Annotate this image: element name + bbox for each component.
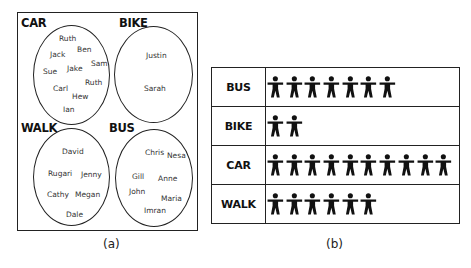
person-icon <box>285 76 304 98</box>
bus-member: Maria <box>161 194 182 203</box>
car-member: Hew <box>72 92 88 101</box>
walk-member: Rugari <box>48 169 72 178</box>
car-member: Ruth <box>59 34 76 43</box>
person-icon <box>416 154 435 176</box>
pictogram-icons <box>266 107 460 146</box>
pictogram-row-bike: BIKE <box>212 107 460 146</box>
person-icon <box>341 193 360 215</box>
person-icon <box>285 154 304 176</box>
group-label-bus: BUS <box>109 121 135 135</box>
car-member: Carl <box>53 84 68 93</box>
car-member: Sam <box>91 59 108 68</box>
pictogram-table: BUSBIKECARWALK <box>211 67 460 224</box>
person-icon <box>397 154 416 176</box>
mode-label: WALK <box>212 185 266 224</box>
person-icon <box>341 154 360 176</box>
car-member: Jake <box>67 64 83 73</box>
group-label-walk: WALK <box>21 121 57 135</box>
person-icon <box>303 76 322 98</box>
bus-member: Nesa <box>167 151 186 160</box>
mode-label: BUS <box>212 68 266 107</box>
bus-member: Chris <box>145 148 164 157</box>
person-icon <box>303 154 322 176</box>
walk-member: David <box>62 147 84 156</box>
pictogram-icons <box>266 146 460 185</box>
person-icon <box>285 193 304 215</box>
person-icon <box>378 76 397 98</box>
person-icon <box>359 154 378 176</box>
person-icon <box>266 76 285 98</box>
person-icon <box>266 154 285 176</box>
person-icon <box>359 76 378 98</box>
bus-member: Gill <box>132 172 144 181</box>
mode-label: BIKE <box>212 107 266 146</box>
bike-member: Justin <box>146 51 167 60</box>
person-icon <box>285 115 304 137</box>
bus-member: Anne <box>158 174 177 183</box>
walk-member: Dale <box>66 210 83 219</box>
caption-a: (a) <box>103 237 120 251</box>
mode-label: CAR <box>212 146 266 185</box>
pictogram-row-car: CAR <box>212 146 460 185</box>
bus-member: Imran <box>144 206 166 215</box>
person-icon <box>322 193 341 215</box>
walk-member: Megan <box>75 190 100 199</box>
car-member: Sue <box>43 67 57 76</box>
person-icon <box>266 115 285 137</box>
grouping-diagram: CAR BIKE WALK BUS Ruth Ben Jack Sam Sue … <box>17 12 198 231</box>
pictogram-icons <box>266 185 460 224</box>
person-icon <box>266 193 285 215</box>
person-icon <box>434 154 453 176</box>
bike-group-ellipse <box>114 26 193 123</box>
car-member: Ruth <box>85 78 102 87</box>
bike-member: Sarah <box>144 84 166 93</box>
person-icon <box>322 76 341 98</box>
pictogram-row-bus: BUS <box>212 68 460 107</box>
person-icon <box>341 76 360 98</box>
pictogram-row-walk: WALK <box>212 185 460 224</box>
car-member: Jack <box>50 50 65 59</box>
person-icon <box>322 154 341 176</box>
person-icon <box>359 193 378 215</box>
bus-member: John <box>129 187 145 196</box>
walk-member: Jenny <box>81 170 102 179</box>
group-label-car: CAR <box>21 16 46 30</box>
walk-member: Cathy <box>47 190 69 199</box>
person-icon <box>303 193 322 215</box>
person-icon <box>378 154 397 176</box>
caption-b: (b) <box>326 237 343 251</box>
pictogram-icons <box>266 68 460 107</box>
car-member: Ian <box>63 105 75 114</box>
car-member: Ben <box>77 45 92 54</box>
